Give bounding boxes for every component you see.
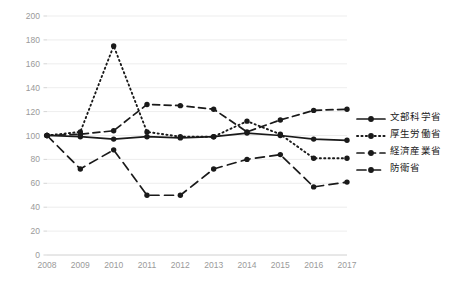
data-point-marker <box>111 128 116 133</box>
x-axis-tick-label: 2016 <box>304 260 323 270</box>
x-axis-tick-labels: 2008200920102011201220132014201520162017 <box>38 260 357 270</box>
series-line <box>47 46 347 158</box>
data-point-marker <box>278 117 283 122</box>
y-axis-tick-label: 200 <box>26 11 40 21</box>
x-axis-tick-label: 2009 <box>71 260 90 270</box>
legend-item[interactable]: 厚生労働省 <box>356 125 454 142</box>
data-point-marker <box>178 103 183 108</box>
data-point-marker <box>244 157 249 162</box>
legend-swatch-icon <box>356 162 386 174</box>
x-axis-tick-label: 2010 <box>104 260 123 270</box>
y-axis-tick-label: 40 <box>31 202 41 212</box>
legend-item[interactable]: 経済産業省 <box>356 142 454 159</box>
y-axis-tick-label: 180 <box>26 35 40 45</box>
data-point-marker <box>44 133 49 138</box>
data-point-marker <box>344 179 349 184</box>
data-point-marker <box>344 107 349 112</box>
y-axis-tick-label: 60 <box>31 178 41 188</box>
y-axis-tick-label: 80 <box>31 154 41 164</box>
legend-label: 厚生労働省 <box>390 129 441 139</box>
y-axis-tick-label: 20 <box>31 226 41 236</box>
data-point-marker <box>311 108 316 113</box>
x-axis-tick-label: 2012 <box>171 260 190 270</box>
x-axis-tick-label: 2017 <box>338 260 357 270</box>
data-point-marker <box>144 129 149 134</box>
x-axis-tick-label: 2013 <box>204 260 223 270</box>
data-point-marker <box>311 156 316 161</box>
legend-item[interactable]: 防衛省 <box>356 159 454 176</box>
x-axis-tick-label: 2011 <box>138 260 157 270</box>
data-point-marker <box>78 166 83 171</box>
data-point-marker <box>144 193 149 198</box>
legend-marker <box>368 167 374 173</box>
data-point-marker <box>178 134 183 139</box>
gridlines <box>44 16 348 255</box>
data-point-marker <box>111 147 116 152</box>
legend-item[interactable]: 文部科学省 <box>356 108 454 125</box>
data-series <box>44 133 349 198</box>
data-point-marker <box>311 136 316 141</box>
data-point-marker <box>244 118 249 123</box>
x-axis-tick-label: 2014 <box>238 260 257 270</box>
data-point-marker <box>78 132 83 137</box>
data-point-marker <box>178 193 183 198</box>
data-point-marker <box>211 107 216 112</box>
data-series <box>44 102 349 138</box>
y-axis-tick-label: 160 <box>26 59 40 69</box>
legend-swatch-icon <box>356 145 386 157</box>
data-point-marker <box>144 102 149 107</box>
legend-label: 文部科学省 <box>390 112 441 122</box>
y-axis-tick-label: 100 <box>26 131 40 141</box>
legend-marker <box>368 133 374 139</box>
legend-marker <box>368 116 374 122</box>
series-line <box>47 104 347 135</box>
data-point-marker <box>111 43 116 48</box>
y-axis-tick-label: 120 <box>26 107 40 117</box>
y-axis-tick-labels: 020406080100120140160180200 <box>26 11 40 260</box>
data-point-marker <box>111 136 116 141</box>
data-point-marker <box>278 132 283 137</box>
data-point-marker <box>144 134 149 139</box>
chart-container: 020406080100120140160180200 200820092010… <box>0 0 455 285</box>
y-axis-tick-label: 0 <box>35 250 40 260</box>
data-series <box>44 43 349 161</box>
data-point-marker <box>211 166 216 171</box>
data-point-marker <box>344 138 349 143</box>
series-line <box>47 136 347 196</box>
data-point-marker <box>211 134 216 139</box>
data-point-marker <box>311 184 316 189</box>
legend-label: 経済産業省 <box>390 146 441 156</box>
data-point-marker <box>244 129 249 134</box>
data-point-marker <box>344 156 349 161</box>
data-point-marker <box>278 152 283 157</box>
legend-marker <box>368 150 374 156</box>
x-axis-tick-label: 2008 <box>38 260 57 270</box>
chart-legend: 文部科学省厚生労働省経済産業省防衛省 <box>356 108 454 176</box>
y-axis-tick-label: 140 <box>26 83 40 93</box>
legend-swatch-icon <box>356 111 386 123</box>
legend-label: 防衛省 <box>390 163 421 173</box>
legend-swatch-icon <box>356 128 386 140</box>
x-axis-tick-label: 2015 <box>271 260 290 270</box>
data-series-group <box>44 43 349 198</box>
